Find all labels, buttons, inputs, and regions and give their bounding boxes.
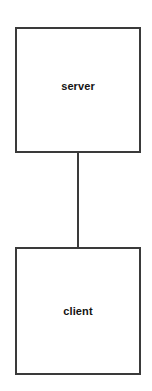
- diagram-edge-server-client: [77, 152, 79, 248]
- diagram-canvas: server client: [0, 0, 152, 391]
- diagram-node-server-label: server: [61, 81, 95, 92]
- diagram-node-client-label: client: [63, 306, 92, 317]
- diagram-node-server[interactable]: server: [15, 27, 141, 153]
- diagram-node-client[interactable]: client: [15, 247, 141, 375]
